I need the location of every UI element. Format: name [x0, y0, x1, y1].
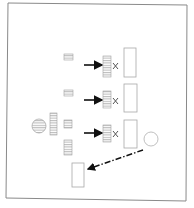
- tall-striped-column: [103, 125, 111, 142]
- left-cluster: [32, 113, 72, 155]
- small-striped-block: [64, 120, 72, 128]
- tall-striped-column: [103, 91, 111, 108]
- dash-dot-arrow-icon: [88, 150, 143, 169]
- output-block: [124, 48, 136, 77]
- small-striped-block: [64, 90, 73, 96]
- small-striped-block: [64, 54, 73, 60]
- outline-circle: [144, 132, 158, 146]
- bottom-block: [72, 163, 84, 187]
- striped-circle: [32, 119, 46, 133]
- figure-frame: [6, 3, 187, 201]
- tall-striped-column: [103, 56, 111, 77]
- multiply-icon: [113, 131, 118, 137]
- multiply-icon: [113, 98, 118, 104]
- diagram-canvas: [0, 0, 194, 208]
- output-block: [124, 84, 137, 112]
- row-3: [84, 120, 137, 148]
- tall-striped-bar: [50, 113, 57, 135]
- lower-striped-block: [64, 140, 72, 155]
- multiply-icon: [113, 63, 118, 69]
- row-2: [64, 84, 137, 112]
- output-block: [124, 120, 137, 148]
- row-1: [64, 48, 136, 77]
